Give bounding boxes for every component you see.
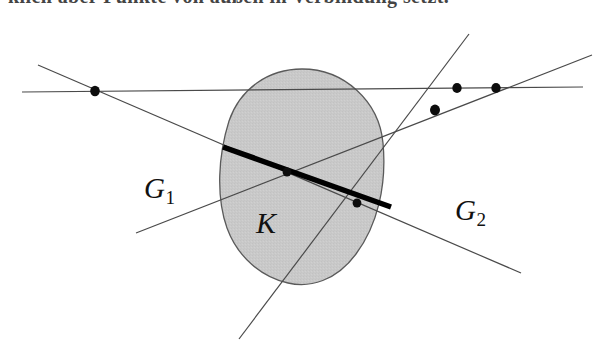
- label-g1-base: G: [144, 172, 165, 204]
- point-chord-center-crossing: [283, 167, 292, 176]
- point-right-outer-on-horizontal: [491, 83, 500, 93]
- label-g2-subscript: 2: [476, 209, 486, 230]
- label-k-base: K: [256, 206, 276, 239]
- point-lower-right-crossing: [430, 105, 440, 116]
- geometric-figure: klich aber Punkte von außen in Verbindun…: [0, 0, 594, 344]
- point-right-inner-on-horizontal: [452, 83, 461, 93]
- label-g2: G2: [455, 196, 486, 229]
- point-left-on-horizontal: [90, 86, 100, 96]
- label-g1-subscript: 1: [165, 187, 175, 208]
- label-g1: G1: [144, 174, 175, 207]
- label-k: K: [256, 208, 276, 238]
- label-g2-base: G: [455, 194, 476, 226]
- figure-canvas: [0, 0, 594, 344]
- point-chord-right-crossing: [353, 198, 362, 207]
